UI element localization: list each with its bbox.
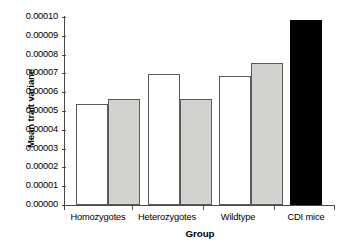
bar-homozygotes-white	[76, 104, 108, 205]
x-axis-title: Group	[64, 228, 336, 239]
x-axis-tick-mark	[64, 205, 65, 210]
x-axis-tick-mark	[334, 205, 335, 210]
bar-heterozygotes-gray	[180, 99, 212, 205]
y-axis-tick-label: 0.00000	[26, 200, 58, 209]
bar-wildtype-gray	[251, 63, 283, 205]
y-axis-tick-label: 0.00009	[26, 31, 58, 40]
y-axis-tick-label: 0.00004	[26, 125, 58, 134]
x-axis-line	[63, 205, 335, 206]
bar-heterozygotes-white	[148, 74, 180, 205]
x-axis-category-label-cdi-mice: CDI mice	[256, 212, 348, 222]
x-axis-tick-mark	[132, 205, 133, 210]
bar-chart-figure: Mean trait variane 0.000000.000010.00002…	[0, 0, 348, 248]
bar-wildtype-white	[219, 76, 251, 205]
x-axis-tick-mark	[274, 205, 275, 210]
y-axis-tick-labels: 0.000000.000010.000020.000030.000040.000…	[2, 0, 64, 248]
y-axis-tick-label: 0.00002	[26, 162, 58, 171]
y-axis-tick-label: 0.00001	[26, 181, 58, 190]
y-axis-tick-label: 0.00007	[26, 68, 58, 77]
y-axis-tick-label: 0.00005	[26, 106, 58, 115]
y-axis-tick-label: 0.00010	[26, 12, 58, 21]
y-axis-tick-label: 0.00008	[26, 50, 58, 59]
plot-area	[64, 17, 334, 205]
bar-homozygotes-gray	[108, 99, 140, 205]
bar-cdi-mice-black	[290, 20, 322, 205]
x-axis-tick-mark	[203, 205, 204, 210]
y-axis-tick-label: 0.00006	[26, 87, 58, 96]
y-axis-tick-label: 0.00003	[26, 144, 58, 153]
